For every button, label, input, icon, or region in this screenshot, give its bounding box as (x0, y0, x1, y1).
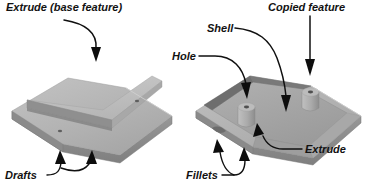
callout-extrude-base-feature: Extrude (base feature) (6, 1, 122, 13)
cad-callout-figure: Extrude (base feature) Copied feature Sh… (0, 0, 366, 186)
callout-drafts: Drafts (5, 169, 37, 181)
diagram-canvas: Extrude (base feature) Copied feature Sh… (0, 0, 366, 186)
left-part-hole-front (58, 130, 62, 132)
callout-fillets: Fillets (186, 169, 218, 181)
callout-copied-feature: Copied feature (268, 1, 345, 13)
right-part-boss-rear (302, 88, 319, 111)
arrowhead-fillet-left (213, 139, 224, 153)
boss-rear-bore (308, 91, 313, 94)
boss-front-bore (244, 106, 249, 109)
leader-extrude-base-feature (64, 20, 101, 62)
arrowhead-copied-feature (305, 59, 315, 76)
arrowhead-extrude-base (91, 47, 101, 62)
left-part-solid (12, 76, 172, 163)
callout-extrude: Extrude (305, 143, 346, 155)
leader-copied-feature (305, 16, 315, 76)
callout-hole: Hole (172, 50, 196, 62)
left-part-hole-rear (135, 100, 139, 102)
right-part-boss-front (238, 103, 255, 127)
callout-shell: Shell (207, 22, 234, 34)
